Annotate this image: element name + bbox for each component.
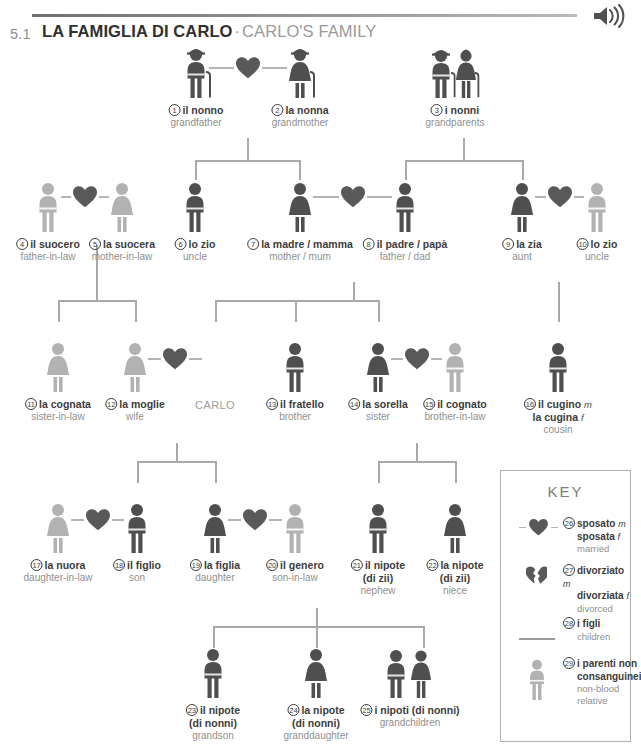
connector	[423, 626, 425, 648]
person-caption-en-18: son	[113, 572, 161, 584]
person-caption-en-1: grandfather	[169, 117, 224, 129]
person-caption-en-3: grandparents	[426, 117, 485, 129]
marriage-heart-icon	[163, 348, 187, 374]
person-caption-en-22: niece	[426, 585, 483, 597]
connector	[137, 461, 139, 483]
person-figure-14	[361, 342, 395, 394]
key-line-icon	[519, 626, 555, 644]
person-number-13: 13	[266, 398, 278, 410]
person-number-20: 20	[266, 559, 278, 571]
person-caption-en-5: mother-in-law	[89, 251, 155, 263]
person-caption-12: 12la mogliewife	[105, 398, 165, 423]
person-number-17: 17	[31, 559, 43, 571]
marriage-heart-icon	[236, 57, 260, 83]
person-number-21: 21	[351, 559, 363, 571]
person-number-10: 10	[577, 238, 589, 250]
connector	[455, 461, 457, 483]
key-label-28: 28i figlichildren	[563, 617, 610, 642]
person-figure-8	[388, 182, 422, 234]
person-caption-en-17: daughter-in-law	[24, 572, 93, 584]
person-number-14: 14	[348, 398, 360, 410]
connector	[135, 300, 137, 322]
carlo-label: CARLO	[195, 399, 235, 411]
connector	[215, 300, 217, 322]
person-caption-en-23: grandson	[186, 730, 240, 742]
marriage-heart-icon	[73, 186, 97, 212]
connector	[213, 626, 424, 628]
person-figure-20	[278, 503, 312, 555]
person-caption-en-11: sister-in-law	[25, 411, 91, 423]
person-number-7: 7	[247, 238, 259, 250]
person-caption-10: 10lo ziouncle	[577, 238, 618, 263]
marriage-heart-icon	[243, 509, 267, 535]
person-caption-14: 14la sorellasister	[348, 398, 408, 423]
speaker-icon[interactable]	[592, 4, 626, 28]
person-figure-11	[41, 342, 75, 394]
page-title: LA FAMIGLIA DI CARLO·CARLO'S FAMILY	[42, 22, 376, 41]
person-caption-7: 7la madre / mammamother / mum	[247, 238, 353, 263]
connector	[316, 626, 318, 648]
person-caption-9: 9la ziaaunt	[502, 238, 542, 263]
person-caption-18: 18il figlioson	[113, 559, 161, 584]
person-figure-15	[438, 342, 472, 394]
person-caption-en-12: wife	[105, 411, 165, 423]
person-caption-en-15: brother-in-law	[423, 411, 487, 423]
person-figure-16	[541, 342, 575, 394]
marriage-line	[189, 358, 202, 360]
person-caption-23: 23il nipote(di nonni)grandson	[186, 704, 240, 742]
key-number-26: 26	[563, 517, 575, 529]
person-number-16: 16	[524, 398, 536, 410]
key-box: KEY 26sposato msposata fmarried 27divorz…	[500, 470, 631, 742]
key-label-29: 29i parenti nonconsanguineinon-bloodrela…	[563, 657, 641, 707]
person-caption-en-4: father-in-law	[16, 251, 80, 263]
person-caption-20: 20il generoson-in-law	[266, 559, 324, 584]
person-caption-en-6: uncle	[175, 251, 216, 263]
person-number-4: 4	[16, 238, 28, 250]
connector	[405, 160, 523, 162]
person-number-9: 9	[502, 238, 514, 250]
marriage-heart-icon	[86, 509, 110, 535]
person-caption-6: 6lo ziouncle	[175, 238, 216, 263]
person-number-23: 23	[186, 704, 198, 716]
header-rule	[32, 14, 577, 17]
key-gray-person-icon	[523, 659, 551, 706]
connector	[378, 300, 380, 322]
person-caption-4: 4il suocerofather-in-law	[16, 238, 80, 263]
marriage-heart-icon	[405, 348, 429, 374]
connector	[295, 300, 297, 322]
connector	[137, 461, 216, 463]
connector	[416, 443, 418, 461]
connector	[58, 300, 60, 322]
person-figure-3	[426, 48, 484, 100]
person-caption-en-25: grandchildren	[360, 717, 459, 729]
person-figure-24	[299, 648, 333, 700]
person-figure-21	[361, 503, 395, 555]
connector	[247, 138, 249, 160]
connector	[353, 282, 355, 300]
connector	[558, 282, 560, 322]
person-caption-15: 15il cognatobrother-in-law	[423, 398, 487, 423]
person-caption-19: 19la figliadaughter	[190, 559, 240, 584]
person-caption-en-13: brother	[266, 411, 324, 423]
connector	[378, 461, 456, 463]
connector	[299, 160, 301, 180]
key-label-27: 27divorziato mdivorziata fdivorced	[563, 564, 630, 614]
person-figure-1	[179, 48, 213, 100]
title-italian: LA FAMIGLIA DI CARLO	[42, 22, 233, 40]
connector	[522, 160, 524, 180]
key-broken-heart-icon	[526, 566, 547, 589]
person-number-1: 1	[169, 104, 181, 116]
section-number: 5.1	[10, 26, 31, 42]
key-title: KEY	[501, 483, 630, 500]
connector	[176, 443, 178, 461]
title-separator: ·	[233, 22, 243, 40]
person-number-24: 24	[287, 704, 299, 716]
person-caption-21: 21il nipote(di zii)nephew	[351, 559, 405, 597]
key-number-29: 29	[563, 657, 575, 669]
person-caption-en-7: mother / mum	[247, 251, 353, 263]
title-english: CARLO'S FAMILY	[242, 22, 376, 40]
person-caption-en-19: daughter	[190, 572, 240, 584]
person-caption-17: 17la nuoradaughter-in-law	[24, 559, 93, 584]
person-caption-13: 13il fratellobrother	[266, 398, 324, 423]
person-number-22: 22	[426, 559, 438, 571]
